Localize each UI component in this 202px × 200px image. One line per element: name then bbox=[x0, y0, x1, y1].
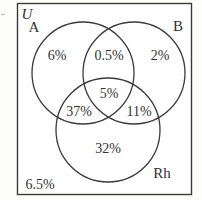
region-value-a-and-b: 0.5% bbox=[94, 49, 123, 63]
set-label-rh: Rh bbox=[153, 166, 171, 181]
region-value-b-only: 2% bbox=[151, 49, 170, 63]
venn-diagram-figure: U A B Rh 6% 0.5% 2% 5% 37% 11% 32% 6.5% bbox=[0, 0, 202, 200]
region-value-outside-all: 6.5% bbox=[25, 178, 54, 192]
region-value-a-and-rh: 37% bbox=[66, 105, 92, 119]
set-label-b: B bbox=[173, 19, 183, 34]
set-label-a: A bbox=[29, 20, 40, 35]
region-value-a-b-rh: 5% bbox=[100, 87, 119, 101]
region-value-a-only: 6% bbox=[48, 49, 67, 63]
region-value-rh-only: 32% bbox=[95, 142, 121, 156]
region-value-b-and-rh: 11% bbox=[126, 105, 151, 119]
